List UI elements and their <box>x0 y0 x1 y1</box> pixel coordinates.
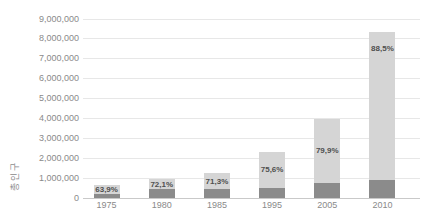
x-tick-label: 2005 <box>302 200 352 211</box>
percent-label: 72,1% <box>140 180 184 189</box>
bar-lower-segment <box>259 188 285 198</box>
y-tick-label: 0 <box>0 193 79 204</box>
y-tick-label: 9,000,000 <box>0 14 79 25</box>
bar-lower-segment <box>314 183 340 198</box>
bar-lower-segment <box>369 180 395 198</box>
y-tick-label: 2,000,000 <box>0 153 79 164</box>
x-tick-label: 1980 <box>137 200 187 211</box>
y-tick-label: 5,000,000 <box>0 93 79 104</box>
bar-upper-segment <box>369 32 395 180</box>
x-tick-label: 1995 <box>247 200 297 211</box>
y-tick-label: 1,000,000 <box>0 173 79 184</box>
x-tick-label: 2010 <box>357 200 407 211</box>
percent-label: 88,5% <box>360 44 404 53</box>
population-bar-chart: 총인구 01,000,0002,000,0003,000,0004,000,00… <box>0 0 424 224</box>
percent-label: 71,3% <box>195 177 239 186</box>
bar-lower-segment <box>204 189 230 198</box>
y-tick-label: 4,000,000 <box>0 113 79 124</box>
x-tick-label: 1975 <box>82 200 132 211</box>
y-tick-label: 6,000,000 <box>0 73 79 84</box>
bar-lower-segment <box>94 194 120 198</box>
percent-label: 63,9% <box>85 185 129 194</box>
y-tick-label: 8,000,000 <box>0 33 79 44</box>
percent-label: 79,9% <box>305 146 349 155</box>
percent-label: 75,6% <box>250 165 294 174</box>
y-tick-label: 3,000,000 <box>0 133 79 144</box>
x-tick-label: 1985 <box>192 200 242 211</box>
bar-lower-segment <box>149 189 175 198</box>
y-tick-label: 7,000,000 <box>0 53 79 64</box>
y-gridline <box>83 19 420 20</box>
